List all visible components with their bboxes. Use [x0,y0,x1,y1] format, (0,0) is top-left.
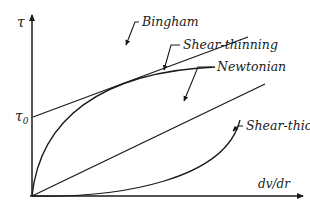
shear-thickening-curve [32,120,240,196]
shear-thinning-leader [164,45,180,70]
y-axis-label: τ [17,14,25,30]
x-axis-label: dv/dr [258,177,291,191]
yield-stress-label: τ0 [15,108,29,126]
rheology-diagram: τ dv/dr τ0 Bingham Shear-thinning Newton… [0,0,310,207]
newtonian-label: Newtonian [216,59,286,74]
newtonian-curve [32,84,265,196]
newtonian-leader [184,67,212,101]
bingham-leader [126,22,139,45]
shear-thickening-label: Shear-thickening [246,118,310,133]
bingham-label: Bingham [141,14,199,29]
shear-thinning-curve [32,67,215,196]
shear-thickening-leader [233,126,243,131]
shear-thinning-label: Shear-thinning [183,37,278,52]
